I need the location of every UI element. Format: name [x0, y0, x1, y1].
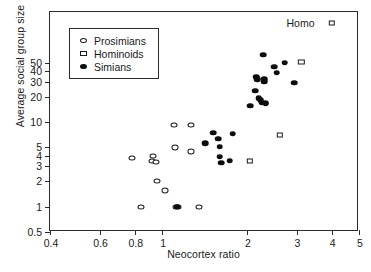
y-tick-label: 3: [36, 160, 42, 172]
data-point-prosimians: [161, 188, 168, 193]
data-point-prosimians: [154, 179, 161, 184]
legend-entry-label: Simians: [94, 61, 131, 73]
data-point-prosimians: [170, 122, 177, 127]
data-point-prosimians: [128, 155, 135, 160]
data-point-hominoids: [277, 133, 283, 138]
x-tick: 0.4: [50, 230, 51, 235]
data-point-prosimians: [138, 204, 145, 209]
data-point-simians: [218, 160, 225, 165]
data-point-simians: [216, 144, 223, 149]
x-tick-label: 0.6: [93, 237, 108, 249]
y-tick: 10: [45, 122, 50, 123]
x-tick: 3: [297, 230, 298, 235]
data-point-hominoids: [247, 158, 253, 163]
data-point-simians: [174, 204, 181, 209]
legend-entry-label: Hominoids: [94, 48, 144, 60]
x-tick: 4: [332, 230, 333, 235]
y-tick-label: 50: [30, 57, 42, 69]
plot-area: 0.5123451020304050 0.40.60.812345 Homo P…: [49, 11, 358, 231]
data-point-simians: [291, 80, 298, 85]
filled-circle-icon: [77, 64, 90, 69]
data-point-simians: [215, 136, 222, 141]
scatter-plot-figure: Average social group size Neocortex rati…: [0, 0, 371, 272]
x-tick: 5: [359, 230, 360, 235]
x-tick: 1: [162, 230, 163, 235]
data-point-simians: [271, 64, 278, 69]
data-point-hominoids: [328, 20, 334, 25]
legend-entry: Prosimians: [77, 34, 146, 47]
legend-entry: Simians: [77, 60, 146, 73]
data-point-simians: [227, 158, 234, 163]
y-tick-label: 10: [30, 116, 42, 128]
open-square-icon: [77, 51, 90, 56]
data-point-simians: [229, 131, 236, 136]
x-tick-label: 3: [295, 237, 301, 249]
y-tick: 2: [45, 181, 50, 182]
data-point-hominoids: [298, 60, 304, 65]
y-tick-label: 0.5: [27, 226, 42, 238]
data-point-prosimians: [171, 145, 178, 150]
y-tick: 30: [45, 82, 50, 83]
x-tick-label: 2: [245, 237, 251, 249]
y-tick: 5: [45, 147, 50, 148]
data-point-prosimians: [188, 122, 195, 127]
y-tick: 1: [45, 207, 50, 208]
legend-entry: Hominoids: [77, 47, 146, 60]
legend: ProsimiansHominoidsSimians: [69, 28, 159, 79]
y-tick-label: 30: [30, 76, 42, 88]
x-tick-label: 5: [357, 237, 363, 249]
annotation-label: Homo: [287, 17, 315, 29]
data-point-simians: [247, 103, 254, 108]
y-tick-label: 2: [36, 175, 42, 187]
data-point-simians: [281, 60, 288, 65]
x-tick: 0.6: [100, 230, 101, 235]
y-tick: 50: [45, 63, 50, 64]
x-tick-label: 0.4: [44, 237, 59, 249]
x-tick-label: 0.8: [128, 237, 143, 249]
data-point-prosimians: [152, 159, 159, 164]
x-tick: 0.8: [135, 230, 136, 235]
data-point-simians: [261, 79, 268, 84]
x-tick-label: 1: [160, 237, 166, 249]
open-circle-icon: [77, 38, 90, 43]
data-point-simians: [260, 52, 267, 57]
data-point-simians: [262, 101, 269, 106]
data-point-simians: [273, 70, 280, 75]
data-point-simians: [202, 141, 209, 146]
y-tick-label: 20: [30, 91, 42, 103]
x-tick-label: 4: [330, 237, 336, 249]
data-point-simians: [216, 154, 223, 159]
y-tick-label: 1: [36, 201, 42, 213]
y-tick: 20: [45, 97, 50, 98]
data-point-prosimians: [195, 204, 202, 209]
x-axis-title: Neocortex ratio: [49, 248, 358, 260]
legend-entry-label: Prosimians: [94, 35, 146, 47]
y-tick: 40: [45, 71, 50, 72]
data-point-prosimians: [188, 149, 195, 154]
data-point-simians: [210, 130, 217, 135]
data-point-simians: [252, 88, 259, 93]
y-tick: 3: [45, 166, 50, 167]
y-tick: 4: [45, 156, 50, 157]
y-tick-label: 5: [36, 141, 42, 153]
y-axis-title: Average social group size: [14, 0, 26, 156]
x-tick: 2: [247, 230, 248, 235]
